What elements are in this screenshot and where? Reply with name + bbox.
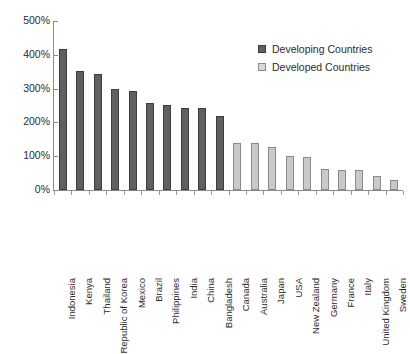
bar[interactable] bbox=[181, 108, 189, 190]
x-axis-label-slot: Kenya bbox=[71, 196, 88, 281]
bar[interactable] bbox=[251, 143, 259, 190]
x-axis-label-slot: Philippines bbox=[159, 196, 176, 281]
legend-label-developing: Developing Countries bbox=[272, 43, 372, 55]
x-axis-tick-mark bbox=[229, 191, 230, 195]
y-axis-tick-label: 0% bbox=[35, 183, 50, 196]
legend-swatch-developing-icon bbox=[258, 45, 266, 53]
x-axis-tick-mark bbox=[368, 191, 369, 195]
x-axis-tick-mark bbox=[386, 191, 387, 195]
x-axis-tick-mark bbox=[159, 191, 160, 195]
x-axis-label-slot: Thailand bbox=[89, 196, 106, 281]
x-axis-tick-mark bbox=[124, 191, 125, 195]
y-axis-tick: 400% bbox=[0, 55, 62, 56]
bar[interactable] bbox=[373, 176, 381, 190]
x-axis-tick-mark bbox=[333, 191, 334, 195]
y-axis-tick: 100% bbox=[0, 156, 62, 157]
x-axis-tick-mark bbox=[298, 191, 299, 195]
x-axis-label-slot: USA bbox=[281, 196, 298, 281]
y-axis-tick-label: 300% bbox=[23, 82, 50, 95]
bar-slot bbox=[141, 21, 158, 190]
bar-slot bbox=[124, 21, 141, 190]
x-axis-tick-mark bbox=[106, 191, 107, 195]
x-axis-tick-mark bbox=[176, 191, 177, 195]
x-axis-label: Bangladesh bbox=[224, 278, 234, 328]
legend-item-developed[interactable]: Developed Countries bbox=[258, 60, 408, 74]
x-axis-label-slot: Mexico bbox=[124, 196, 141, 281]
bar[interactable] bbox=[321, 169, 329, 190]
x-axis-tick-mark bbox=[281, 191, 282, 195]
x-axis-label-slot: New Zealand bbox=[298, 196, 315, 281]
x-axis-label: Japan bbox=[276, 278, 286, 304]
bar[interactable] bbox=[59, 49, 67, 190]
y-axis-tick-label: 200% bbox=[23, 115, 50, 128]
x-axis-tick-mark bbox=[403, 191, 404, 195]
bar-slot bbox=[229, 21, 246, 190]
bar[interactable] bbox=[216, 116, 224, 190]
x-axis-label-slot: Indonesia bbox=[54, 196, 71, 281]
bar[interactable] bbox=[390, 180, 398, 190]
x-axis-label: Indonesia bbox=[67, 278, 77, 319]
x-axis-label: Republic of Korea bbox=[119, 278, 129, 354]
bar[interactable] bbox=[233, 143, 241, 190]
bar[interactable] bbox=[76, 71, 84, 190]
x-axis-tick-mark bbox=[211, 191, 212, 195]
x-axis-tick-mark bbox=[316, 191, 317, 195]
x-axis-label: Kenya bbox=[84, 278, 94, 305]
bar[interactable] bbox=[338, 170, 346, 190]
x-axis-label-slot: China bbox=[194, 196, 211, 281]
x-axis-label: Mexico bbox=[137, 278, 147, 308]
bar[interactable] bbox=[286, 156, 294, 190]
bar[interactable] bbox=[268, 147, 276, 190]
x-axis-label: Sweden bbox=[398, 278, 408, 312]
x-axis-label-slot: France bbox=[333, 196, 350, 281]
bar-slot bbox=[211, 21, 228, 190]
bar[interactable] bbox=[129, 91, 137, 190]
x-axis-label-slot: Australia bbox=[246, 196, 263, 281]
x-axis-label-slot: India bbox=[176, 196, 193, 281]
x-axis-label-slot: Germany bbox=[316, 196, 333, 281]
x-axis-label-slot: Japan bbox=[263, 196, 280, 281]
x-axis-label-slot: Republic of Korea bbox=[106, 196, 123, 281]
bar[interactable] bbox=[163, 105, 171, 190]
x-axis-label: China bbox=[206, 278, 216, 303]
x-axis-label: United Kingdom bbox=[381, 278, 391, 346]
bar-slot bbox=[106, 21, 123, 190]
x-axis-label: Brazil bbox=[154, 278, 164, 302]
legend-item-developing[interactable]: Developing Countries bbox=[258, 42, 408, 56]
bar[interactable] bbox=[146, 103, 154, 190]
x-axis-label: Canada bbox=[241, 278, 251, 311]
x-axis-tick-mark bbox=[263, 191, 264, 195]
x-axis-tick-mark bbox=[89, 191, 90, 195]
x-axis-label: Australia bbox=[259, 278, 269, 315]
x-axis-label: Germany bbox=[329, 278, 339, 317]
chart-legend: Developing Countries Developed Countries bbox=[258, 42, 408, 78]
x-axis-label-slot: Bangladesh bbox=[211, 196, 228, 281]
bar-slot bbox=[54, 21, 71, 190]
x-axis-label-slot: Brazil bbox=[141, 196, 158, 281]
x-axis-label: Thailand bbox=[102, 278, 112, 314]
bar[interactable] bbox=[94, 74, 102, 190]
y-axis-tick-label: 400% bbox=[23, 48, 50, 61]
x-axis-tick-mark bbox=[54, 191, 55, 195]
x-axis-tick-mark bbox=[351, 191, 352, 195]
x-axis-tick-mark bbox=[141, 191, 142, 195]
y-axis-tick: 500% bbox=[0, 21, 62, 22]
y-axis-tick-label: 100% bbox=[23, 149, 50, 162]
bar[interactable] bbox=[303, 157, 311, 190]
bar-slot bbox=[176, 21, 193, 190]
bar[interactable] bbox=[198, 108, 206, 190]
x-axis-label: Philippines bbox=[171, 278, 181, 324]
bar-slot bbox=[89, 21, 106, 190]
x-axis-tick-mark bbox=[246, 191, 247, 195]
x-axis-label: France bbox=[346, 278, 356, 308]
bar[interactable] bbox=[355, 170, 363, 190]
x-axis-labels: IndonesiaKenyaThailandRepublic of KoreaM… bbox=[54, 196, 403, 281]
x-axis-label: India bbox=[189, 278, 199, 299]
bar-slot bbox=[71, 21, 88, 190]
x-axis-tick-mark bbox=[194, 191, 195, 195]
x-axis-tick-mark bbox=[71, 191, 72, 195]
y-axis-tick: 300% bbox=[0, 89, 62, 90]
bar-slot bbox=[194, 21, 211, 190]
bar[interactable] bbox=[111, 89, 119, 190]
